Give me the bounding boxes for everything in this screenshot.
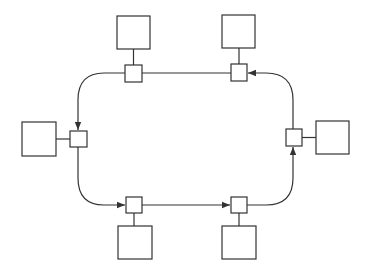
junction-node-bottom-right bbox=[231, 197, 247, 213]
edge-top-left-curve bbox=[78, 73, 125, 130]
junction-node-top-left bbox=[125, 65, 142, 82]
station-box-bottom-right bbox=[222, 226, 256, 259]
junction-node-right bbox=[286, 129, 302, 146]
ring-network-diagram bbox=[0, 0, 367, 275]
station-box-right bbox=[316, 121, 349, 154]
junction-node-bottom-left bbox=[126, 197, 142, 213]
junction-node-left bbox=[70, 131, 87, 147]
junction-node-top-right bbox=[231, 64, 247, 81]
edge-bottom-left-curve bbox=[78, 147, 125, 205]
station-box-bottom-left bbox=[118, 226, 152, 259]
edge-top-right-curve bbox=[248, 73, 293, 129]
station-box-top-right bbox=[222, 15, 255, 48]
edge-bottom-right-curve bbox=[247, 147, 293, 205]
station-box-left bbox=[22, 122, 56, 156]
station-box-top-left bbox=[117, 16, 150, 49]
